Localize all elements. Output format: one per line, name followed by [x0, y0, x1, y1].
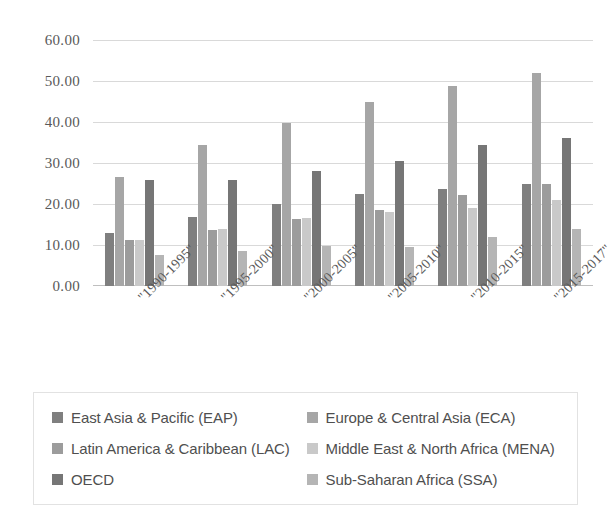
legend-label: Sub-Saharan Africa (SSA) — [326, 471, 498, 488]
bar — [292, 219, 301, 286]
bar — [562, 138, 571, 286]
bar — [468, 208, 477, 286]
bar — [385, 212, 394, 286]
y-axis-tick-label: 40.00 — [45, 114, 80, 131]
bar-chart: 60.0050.0040.0030.0020.0010.000.00 "1990… — [0, 0, 611, 530]
bar — [395, 161, 404, 286]
legend-label: Middle East & North Africa (MENA) — [326, 440, 555, 457]
bar — [355, 194, 364, 286]
legend-swatch-icon — [307, 412, 318, 423]
plot-area: 60.0050.0040.0030.0020.0010.000.00 "1990… — [0, 0, 611, 300]
y-axis-labels: 60.0050.0040.0030.0020.0010.000.00 — [0, 0, 88, 300]
x-axis-label-slot: "2005-2010" — [343, 288, 426, 373]
bar — [552, 200, 561, 286]
bar — [458, 195, 467, 286]
legend-item[interactable]: East Asia & Pacific (EAP) — [52, 409, 307, 426]
legend-swatch-icon — [52, 474, 63, 485]
legend-label: East Asia & Pacific (EAP) — [71, 409, 238, 426]
legend-label: Latin America & Caribbean (LAC) — [71, 440, 290, 457]
x-axis-labels: "1990-1995""1995-2000""2000-2005""2005-2… — [93, 288, 593, 373]
legend-item[interactable]: Middle East & North Africa (MENA) — [307, 440, 562, 457]
y-axis-tick-label: 10.00 — [45, 237, 80, 254]
chart-legend: East Asia & Pacific (EAP)Europe & Centra… — [33, 392, 578, 505]
y-axis-tick-label: 60.00 — [45, 32, 80, 49]
bar — [532, 73, 541, 286]
bar — [365, 102, 374, 286]
bar — [198, 145, 207, 286]
bar — [208, 230, 217, 286]
bar — [448, 86, 457, 286]
legend-item[interactable]: Latin America & Caribbean (LAC) — [52, 440, 307, 457]
bar — [282, 123, 291, 286]
legend-grid: East Asia & Pacific (EAP)Europe & Centra… — [52, 402, 561, 495]
y-axis-tick-label: 30.00 — [45, 155, 80, 172]
x-axis-label-slot: "2015-2017" — [510, 288, 593, 373]
legend-swatch-icon — [52, 412, 63, 423]
bar-group — [93, 40, 176, 286]
x-axis-label-slot: "2010-2015" — [426, 288, 509, 373]
bar — [218, 229, 227, 286]
legend-label: OECD — [71, 471, 114, 488]
bar — [542, 184, 551, 287]
bar — [522, 184, 531, 286]
bar — [302, 218, 311, 286]
bar — [115, 177, 124, 286]
x-axis-label-slot: "2000-2005" — [260, 288, 343, 373]
legend-item[interactable]: Europe & Central Asia (ECA) — [307, 409, 562, 426]
legend-swatch-icon — [52, 443, 63, 454]
x-axis-label-slot: "1990-1995" — [93, 288, 176, 373]
x-axis-label-slot: "1995-2000" — [176, 288, 259, 373]
y-axis-tick-label: 50.00 — [45, 73, 80, 90]
bar — [145, 180, 154, 286]
bar — [125, 240, 134, 286]
bar — [105, 233, 114, 286]
bar — [135, 240, 144, 286]
legend-item[interactable]: Sub-Saharan Africa (SSA) — [307, 471, 562, 488]
bar — [312, 171, 321, 286]
legend-label: Europe & Central Asia (ECA) — [326, 409, 516, 426]
y-axis-tick-label: 20.00 — [45, 196, 80, 213]
legend-swatch-icon — [307, 443, 318, 454]
bar — [228, 180, 237, 286]
legend-item[interactable]: OECD — [52, 471, 307, 488]
y-axis-tick-label: 0.00 — [53, 278, 80, 295]
bar — [438, 189, 447, 286]
legend-swatch-icon — [307, 474, 318, 485]
bar — [478, 145, 487, 286]
bar — [375, 210, 384, 286]
